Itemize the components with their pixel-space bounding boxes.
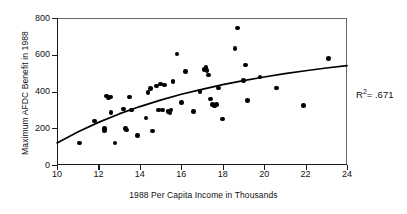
y-tick-label: 800 [10, 14, 50, 23]
x-tick-label: 20 [249, 170, 279, 179]
data-point [241, 78, 246, 83]
data-point [216, 86, 221, 91]
data-point [274, 86, 279, 91]
data-point [235, 26, 240, 31]
data-point [214, 102, 219, 107]
data-point [326, 56, 331, 61]
data-point [150, 129, 155, 134]
data-point [135, 133, 140, 138]
data-point [160, 108, 165, 113]
data-point [127, 95, 132, 100]
x-tick-label: 14 [125, 170, 155, 179]
x-axis-title: 1988 Per Capita Income in Thousands [0, 190, 407, 200]
data-point [171, 79, 176, 84]
data-point [301, 103, 306, 108]
data-point [208, 97, 213, 102]
y-tick-label: 0 [10, 161, 50, 170]
data-point [129, 108, 134, 113]
x-tick-label: 16 [166, 170, 196, 179]
x-tick-label: 10 [42, 170, 72, 179]
data-point [245, 98, 250, 103]
data-point [243, 63, 248, 68]
x-tick-label: 24 [332, 170, 362, 179]
x-tick-label: 12 [83, 170, 113, 179]
data-point [102, 128, 107, 133]
x-tick-label: 18 [208, 170, 238, 179]
data-point [148, 86, 153, 91]
x-tick-label: 22 [291, 170, 321, 179]
data-point [92, 119, 97, 124]
data-point [191, 109, 196, 114]
data-point [206, 73, 211, 78]
r-squared-symbol: R [356, 89, 363, 100]
y-tick-label: 200 [10, 124, 50, 133]
r-squared-value: = .671 [367, 89, 394, 100]
y-tick-label: 400 [10, 87, 50, 96]
data-point [233, 46, 238, 51]
r-squared-annotation: R2= .671 [356, 88, 393, 100]
y-tick-label: 600 [10, 50, 50, 59]
plot-area: 0200400600800 1012141618202224 [57, 18, 347, 165]
data-point [198, 89, 203, 94]
data-point [109, 110, 114, 115]
scatter-plot-figure: Maximum AFDC Benefit in 1988 1988 Per Ca… [0, 0, 407, 214]
data-point [121, 107, 126, 112]
data-point [179, 100, 184, 105]
data-point [124, 128, 129, 133]
data-point [183, 69, 188, 74]
